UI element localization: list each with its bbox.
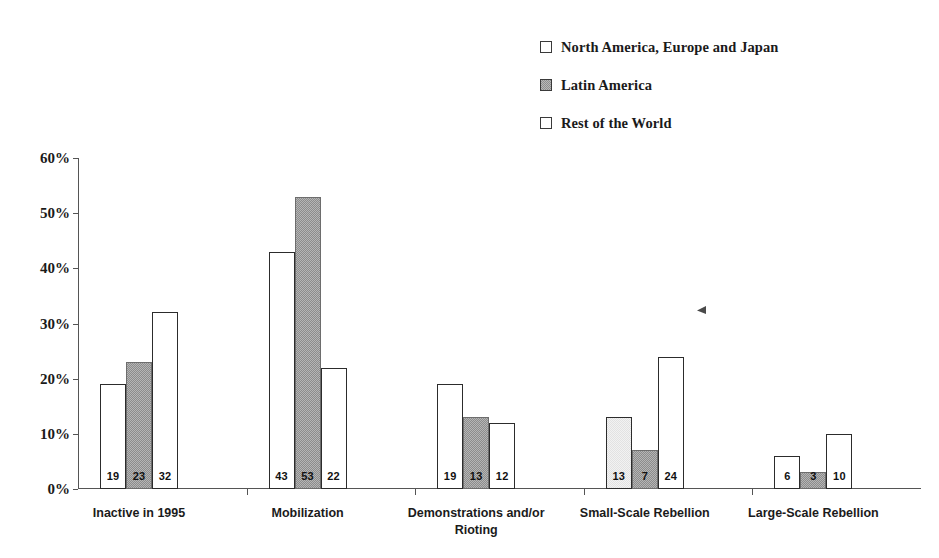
bar-chart: North America, Europe and Japan Latin Am… [0,0,939,558]
bar: 7 [632,450,658,489]
bar-value-label: 22 [322,470,346,482]
bar-value-label: 19 [438,470,462,482]
y-axis-tick [73,213,78,214]
y-axis-line [78,158,79,489]
y-axis-tick-label: 20% [40,370,70,387]
y-axis-tick [73,379,78,380]
bar-value-label: 3 [801,470,825,482]
legend-swatch-gray-icon [540,79,552,91]
y-axis-tick [73,324,78,325]
bar: 10 [826,434,852,489]
y-axis-tick-label: 40% [40,260,70,277]
y-axis-tick-label: 30% [40,315,70,332]
bar: 13 [463,417,489,489]
legend-item-rest-of-the-world: Rest of the World [540,104,779,142]
y-axis-labels: 0%10%20%30%40%50%60% [0,158,70,489]
bar: 12 [489,423,515,489]
bar: 32 [152,312,178,489]
bar-value-label: 10 [827,470,851,482]
bar: 53 [295,197,321,489]
y-axis-tick-label: 60% [40,150,70,167]
bar-value-label: 13 [607,470,631,482]
bar-value-label: 6 [775,470,799,482]
legend-label: Rest of the World [561,115,672,132]
x-axis-category-label: Large-Scale Rebellion [703,505,923,522]
chart-legend: North America, Europe and Japan Latin Am… [540,28,779,142]
y-axis-tick-label: 10% [40,425,70,442]
legend-item-latin-america: Latin America [540,66,779,104]
bar: 22 [321,368,347,489]
y-axis-tick [73,434,78,435]
legend-item-north-america-europe-japan: North America, Europe and Japan [540,28,779,66]
bar-value-label: 23 [127,470,151,482]
bar: 6 [774,456,800,489]
bar-value-label: 53 [296,470,320,482]
bar-value-label: 19 [101,470,125,482]
y-axis-tick-label: 0% [48,481,71,498]
legend-label: Latin America [561,77,652,94]
x-axis-tick [247,489,248,495]
y-axis-tick [73,268,78,269]
bar-value-label: 7 [633,470,657,482]
bar-value-label: 32 [153,470,177,482]
bar: 19 [437,384,463,489]
bar: 13 [606,417,632,489]
x-axis-tick [415,489,416,495]
plot-area: 192332435322191312137246310 [78,158,921,489]
y-axis-tick [73,489,78,490]
bar-value-label: 13 [464,470,488,482]
x-axis-tick [752,489,753,495]
bar: 3 [800,472,826,489]
bar-value-label: 24 [659,470,683,482]
bar: 23 [126,362,152,489]
bar: 24 [658,357,684,489]
legend-swatch-outline-icon [540,41,552,53]
legend-label: North America, Europe and Japan [561,39,779,56]
legend-swatch-outline-icon [540,117,552,129]
bar: 19 [100,384,126,489]
bar: 43 [269,252,295,489]
x-axis-tick [584,489,585,495]
y-axis-tick [73,158,78,159]
bar-value-label: 12 [490,470,514,482]
bar-value-label: 43 [270,470,294,482]
y-axis-tick-label: 50% [40,205,70,222]
